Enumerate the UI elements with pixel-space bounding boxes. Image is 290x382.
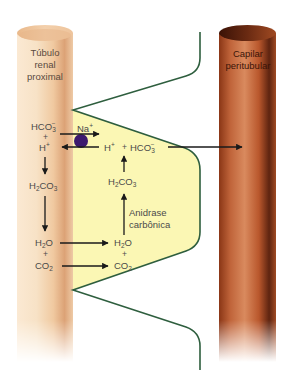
cell-h2co3-label: H2CO3 bbox=[108, 177, 136, 189]
lumen-h2o-label: H2O bbox=[35, 238, 53, 250]
cell-plus: + bbox=[122, 250, 127, 259]
na-h-exchanger-icon bbox=[74, 134, 88, 148]
epithelial-cell bbox=[73, 110, 200, 290]
carbonic-anhydrase-label: Anidrase carbônica bbox=[129, 207, 170, 231]
cell-co2-label: CO2 bbox=[114, 261, 132, 273]
cell-plus-mid: + bbox=[122, 143, 127, 152]
lumen-h2co3-label: H2CO3 bbox=[29, 181, 57, 193]
cell-hco3-label: HCO3− bbox=[130, 142, 155, 155]
lumen-h-label: H+ bbox=[39, 142, 50, 153]
cell-h2o-label: H2O bbox=[114, 238, 132, 250]
cell-h-label: H+ bbox=[104, 142, 115, 153]
tubule-label-line2: renal bbox=[17, 59, 73, 71]
lumen-co2-label: CO2 bbox=[35, 261, 53, 273]
capillary-label-line2: peritubular bbox=[212, 60, 284, 72]
tubule-label-line3: proximal bbox=[17, 71, 73, 83]
lumen-plus-2: + bbox=[43, 250, 48, 259]
tubule-label: Túbulo renal proximal bbox=[17, 47, 73, 83]
capillary-label-line1: Capilar bbox=[212, 48, 284, 60]
cell-na-label: Na+ bbox=[77, 123, 93, 134]
bicarbonate-reabsorption-diagram: Túbulo renal proximal Capilar peritubula… bbox=[0, 0, 290, 382]
tubule-label-line1: Túbulo bbox=[17, 47, 73, 59]
capillary-label: Capilar peritubular bbox=[212, 48, 284, 72]
peritubular-capillary bbox=[219, 25, 276, 363]
